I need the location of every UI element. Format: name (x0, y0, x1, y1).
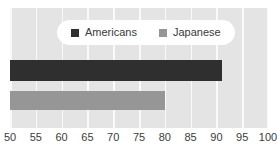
x-tick-label: 55 (30, 132, 42, 143)
legend-label-japanese: Japanese (173, 27, 221, 38)
x-tick-label: 50 (4, 132, 16, 143)
legend-swatch-americans-icon (71, 29, 79, 37)
x-tick-label: 75 (133, 132, 145, 143)
legend-entry-japanese: Japanese (159, 27, 221, 38)
chart-legend: Americans Japanese (57, 20, 235, 45)
bar-japanese (10, 91, 165, 110)
legend-entry-americans: Americans (71, 27, 137, 38)
x-tick-label: 80 (159, 132, 171, 143)
x-tick-label: 65 (81, 132, 93, 143)
x-tick-label: 100 (259, 132, 277, 143)
legend-label-americans: Americans (85, 27, 137, 38)
x-tick-label: 90 (210, 132, 222, 143)
gridline (267, 8, 269, 128)
x-tick-label: 60 (55, 132, 67, 143)
bar-chart: Americans Japanese 505560657075808590951… (0, 0, 277, 155)
x-axis: 50556065707580859095100 (0, 130, 277, 152)
x-tick-label: 95 (236, 132, 248, 143)
legend-swatch-japanese-icon (159, 29, 167, 37)
x-tick-label: 70 (107, 132, 119, 143)
bar-americans (10, 60, 222, 81)
x-tick-label: 85 (184, 132, 196, 143)
gridline (242, 8, 244, 128)
